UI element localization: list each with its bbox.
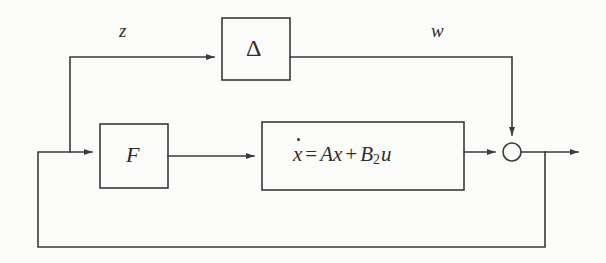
diagram-svg xyxy=(0,0,606,263)
b-matrix: B xyxy=(360,142,373,166)
signal-label-z: z xyxy=(119,20,126,42)
state-variable: x xyxy=(293,142,302,166)
b-subscript: 2 xyxy=(373,152,381,167)
signal-label-w: w xyxy=(431,20,444,42)
a-term: Ax xyxy=(320,142,342,166)
summing-junction-circle xyxy=(503,143,521,161)
f-block-label: F xyxy=(126,142,139,168)
plus-sign: + xyxy=(342,142,360,166)
z-path-line xyxy=(70,57,214,152)
outer-feedback-line xyxy=(38,152,545,247)
x-dot-symbol: x xyxy=(293,142,302,167)
input-variable: u xyxy=(381,142,392,166)
diagram-canvas: z w Δ F x=Ax+B2u xyxy=(0,0,606,263)
delta-block-label: Δ xyxy=(246,35,261,62)
equals-sign: = xyxy=(302,142,320,166)
w-path-line xyxy=(290,57,512,135)
plant-equation-label: x=Ax+B2u xyxy=(293,142,391,168)
